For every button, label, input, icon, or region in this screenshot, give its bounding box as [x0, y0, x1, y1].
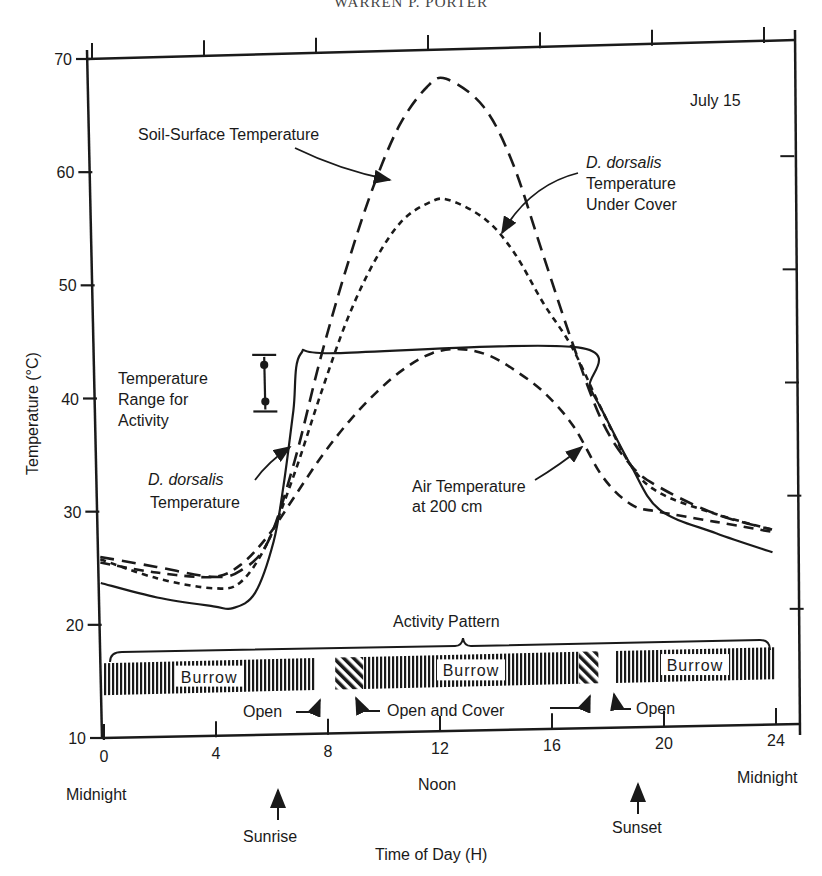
open-cover-right-arrow	[550, 696, 590, 708]
range-label-line1: Temperature	[118, 370, 208, 387]
x-tick-label: 0	[100, 748, 109, 765]
date-label: July 15	[690, 92, 741, 109]
air-pointer-arrow	[535, 447, 582, 480]
x-annot-sunset: Sunset	[612, 819, 662, 836]
activity-segment-open-and-cover	[579, 651, 599, 683]
activity-segment-open-and-cover	[335, 657, 363, 690]
cover-pointer-arrow	[502, 173, 578, 233]
temperature-chart: 10203040506070 04812162024 BurrowBurrowB…	[0, 0, 822, 876]
x-tick-label: 16	[543, 737, 561, 754]
x-annot-midnight-left: Midnight	[66, 786, 127, 803]
open-callout-left: Open	[243, 703, 282, 720]
y-tick-label: 10	[68, 730, 86, 747]
x-annot-sunrise: Sunrise	[243, 828, 297, 845]
x-tick-label: 4	[212, 745, 221, 762]
activity-segment-burrow: Burrow	[363, 652, 579, 689]
y-tick-label: 50	[59, 277, 77, 294]
svg-text:Burrow: Burrow	[181, 669, 238, 686]
activity-pattern-bar: BurrowBurrowBurrow	[103, 647, 775, 695]
open-left-arrow	[296, 700, 320, 712]
svg-text:Burrow: Burrow	[667, 657, 724, 674]
dd-label-species: D. dorsalis	[148, 471, 224, 488]
activity-range-marker	[252, 355, 277, 412]
x-annot-noon: Noon	[418, 776, 456, 793]
y-axis-title: Temperature (°C)	[24, 352, 41, 475]
air-label-line2: at 200 cm	[412, 498, 482, 515]
soil-pointer-arrow	[295, 148, 390, 180]
svg-text:Burrow: Burrow	[443, 662, 500, 679]
range-label-line2: Range for	[118, 391, 189, 408]
data-series	[100, 78, 772, 609]
activity-pattern-label: Activity Pattern	[393, 613, 500, 630]
x-tick-label: 20	[655, 735, 673, 752]
x-axis-title: Time of Day (H)	[375, 846, 487, 863]
y-tick-label: 40	[61, 391, 79, 408]
x-tick-label: 24	[767, 732, 785, 749]
x-annot-midnight-right: Midnight	[737, 769, 798, 786]
range-label-line3: Activity	[118, 412, 169, 429]
cover-label-species: D. dorsalis	[586, 154, 662, 171]
activity-segment-burrow: Burrow	[615, 647, 775, 683]
dd-label-line2: Temperature	[150, 494, 240, 511]
open-cover-left-arrow	[356, 698, 380, 711]
air-label-line1: Air Temperature	[412, 478, 526, 495]
soil-label: Soil-Surface Temperature	[138, 126, 319, 143]
y-tick-label: 60	[57, 164, 75, 181]
y-tick-label: 30	[64, 504, 82, 521]
y-tick-label: 20	[66, 617, 84, 634]
open-cover-callout: Open and Cover	[387, 702, 505, 719]
cover-label-line2: Temperature	[586, 175, 676, 192]
open-right-arrow	[614, 694, 631, 709]
cover-label-line3: Under Cover	[586, 196, 677, 213]
x-tick-label: 8	[324, 743, 333, 760]
activity-segment-burrow: Burrow	[103, 658, 316, 695]
x-tick-label: 12	[431, 740, 449, 757]
open-callout-right: Open	[636, 700, 675, 717]
y-tick-label: 70	[54, 51, 72, 68]
series-line-1	[100, 199, 772, 589]
